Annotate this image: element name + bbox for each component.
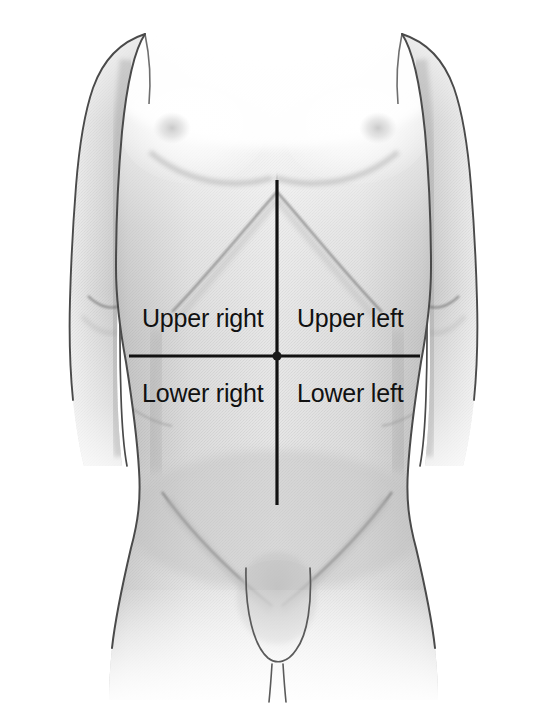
umbilicus-marker [272, 351, 281, 360]
quadrant-label-lower-right: Lower right [142, 381, 263, 406]
left-nipple [153, 112, 191, 144]
left-pectoral-highlight [121, 80, 265, 184]
right-nipple [359, 112, 397, 144]
quadrant-label-upper-left: Upper left [297, 306, 403, 331]
quadrant-label-lower-left: Lower left [297, 381, 403, 406]
right-pectoral-highlight [284, 80, 428, 184]
torso-illustration [0, 0, 547, 713]
quadrant-label-upper-right: Upper right [142, 306, 263, 331]
abdominal-quadrants-figure: Upper right Upper left Lower right Lower… [0, 0, 547, 713]
